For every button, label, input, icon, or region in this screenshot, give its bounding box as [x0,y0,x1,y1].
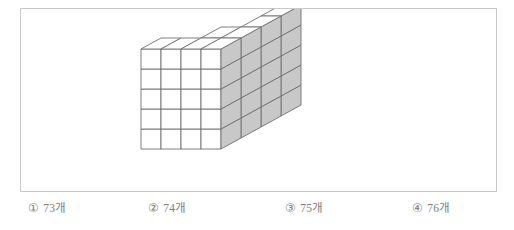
option-marker-3: ③ [285,200,296,216]
page-root: ①73개 ②74개 ③75개 ④76개 [0,0,514,230]
option-marker-2: ② [148,200,159,216]
answer-option-2[interactable]: ②74개 [148,200,186,216]
option-label-1: 73개 [43,200,66,216]
option-marker-4: ④ [412,200,423,216]
cube-face [141,129,161,149]
option-label-2: 74개 [163,200,186,216]
cube-face [161,129,181,149]
cube-face [141,89,161,109]
cube-face [181,129,201,149]
answer-options: ①73개 ②74개 ③75개 ④76개 [20,200,497,224]
cube-face [161,69,181,89]
cube-face [141,49,161,69]
cube-face [201,89,221,109]
cube-face [201,109,221,129]
option-label-4: 76개 [427,200,450,216]
cube-face [201,69,221,89]
cube-face [161,89,181,109]
cube-face [181,109,201,129]
cube-face [161,109,181,129]
cube-face [201,49,221,69]
isometric-cube-stack-figure [21,9,498,193]
answer-option-1[interactable]: ①73개 [28,200,66,216]
cube-face [201,129,221,149]
cube-face [181,89,201,109]
cube-group [141,9,301,149]
option-label-3: 75개 [300,200,323,216]
cube-face [141,69,161,89]
figure-frame [20,8,497,192]
cube-face [161,49,181,69]
cube-face [141,109,161,129]
cube-face [181,69,201,89]
answer-option-4[interactable]: ④76개 [412,200,450,216]
option-marker-1: ① [28,200,39,216]
answer-option-3[interactable]: ③75개 [285,200,323,216]
cube-face [181,49,201,69]
